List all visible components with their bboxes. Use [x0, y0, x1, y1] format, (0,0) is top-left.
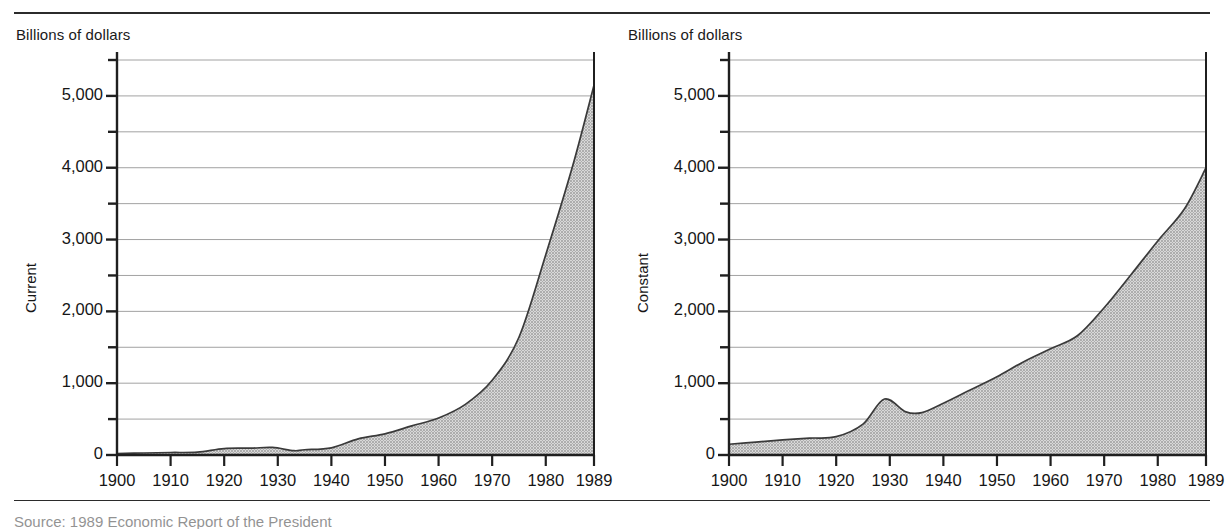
x-tick-label: 1970	[465, 471, 519, 490]
plot-area-constant	[612, 0, 1224, 500]
x-tick-label: 1940	[304, 471, 358, 490]
y-tick-label: 5,000	[635, 85, 715, 104]
x-tick-label: 1960	[412, 471, 466, 490]
x-tick-label: 1920	[809, 471, 863, 490]
x-tick-label: 1980	[1131, 471, 1185, 490]
y-tick-label: 0	[635, 444, 715, 463]
y-tick-label: 1,000	[635, 372, 715, 391]
y-tick-label: 5,000	[23, 85, 103, 104]
x-tick-label: 1930	[251, 471, 305, 490]
y-tick-label: 1,000	[23, 372, 103, 391]
x-tick-label: 1910	[756, 471, 810, 490]
bottom-rule	[14, 500, 1210, 501]
x-tick-label: 1920	[197, 471, 251, 490]
footer-clipped-text: Source: 1989 Economic Report of the Pres…	[14, 516, 714, 529]
x-tick-label: 1989	[1179, 471, 1229, 490]
chart-panel-constant: Billions of dollars 01,0002,0003,0004,00…	[612, 0, 1224, 500]
y-tick-label: 3,000	[23, 229, 103, 248]
x-ticks	[117, 455, 594, 466]
y-tick-label: 4,000	[635, 157, 715, 176]
x-tick-label: 1950	[970, 471, 1024, 490]
x-tick-label: 1950	[358, 471, 412, 490]
chart-svg-current	[0, 0, 612, 500]
y-ticks	[718, 60, 729, 455]
y-tick-label: 0	[23, 444, 103, 463]
footer-text: Source: 1989 Economic Report of the Pres…	[14, 516, 714, 529]
x-tick-label: 1960	[1024, 471, 1078, 490]
x-tick-label: 1980	[519, 471, 573, 490]
x-ticks	[729, 455, 1206, 466]
chart-panel-current: Billions of dollars 01,0002,0003,0004,00…	[0, 0, 612, 500]
y-ticks	[106, 60, 117, 455]
y-tick-label: 3,000	[635, 229, 715, 248]
chart-svg-constant	[612, 0, 1224, 500]
y-axis-title: Constant	[634, 253, 651, 313]
y-axis-title: Current	[22, 263, 39, 313]
x-tick-label: 1900	[90, 471, 144, 490]
y-tick-label: 4,000	[23, 157, 103, 176]
x-tick-label: 1940	[916, 471, 970, 490]
x-tick-label: 1970	[1077, 471, 1131, 490]
area-fill	[117, 85, 594, 455]
x-tick-label: 1900	[702, 471, 756, 490]
plot-area-current	[0, 0, 612, 500]
x-tick-label: 1910	[144, 471, 198, 490]
x-tick-label: 1930	[863, 471, 917, 490]
